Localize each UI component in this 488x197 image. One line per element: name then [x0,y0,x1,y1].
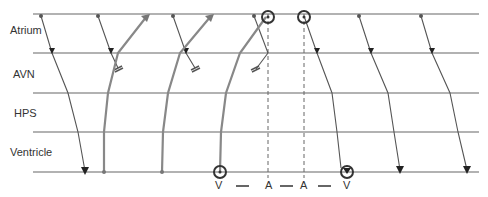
bottom-label-a1: A [265,179,272,191]
row-label-avn: AVN [13,68,35,80]
bottom-label-v1: V [215,179,222,191]
row-label-atrium: Atrium [10,24,42,36]
row-divider-lines [33,14,479,172]
diagram-canvas [0,0,488,197]
bottom-label-v2: V [343,179,350,191]
row-label-hps: HPS [14,107,37,119]
row-label-ventricle: Ventricle [10,146,52,158]
bottom-label-a2: A [300,179,307,191]
